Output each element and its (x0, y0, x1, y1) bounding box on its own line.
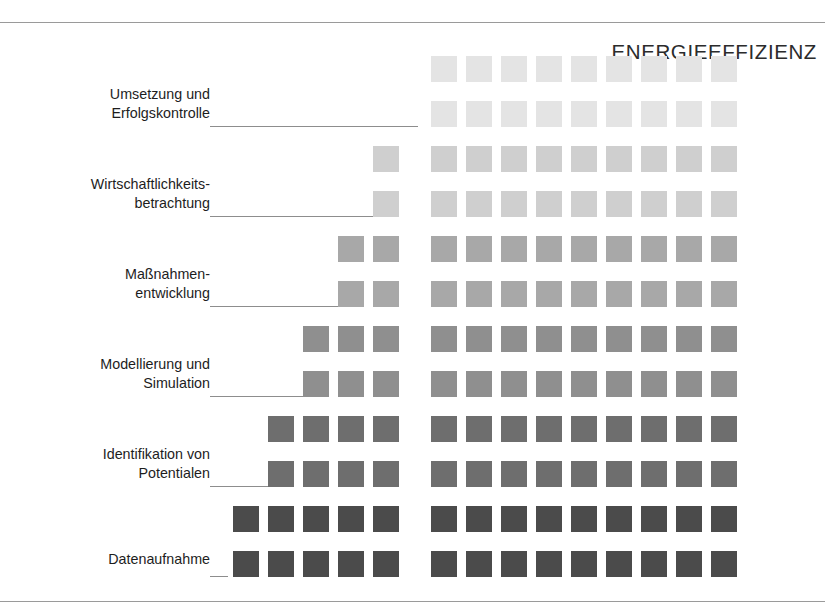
leader-line-massnahmenentwicklung (210, 306, 357, 307)
matrix-cell (268, 551, 294, 577)
matrix-cell (373, 461, 399, 487)
matrix-cell (431, 101, 457, 127)
matrix-cell (373, 506, 399, 532)
matrix-cell (676, 101, 702, 127)
matrix-cell (711, 416, 737, 442)
matrix-cell (431, 146, 457, 172)
matrix-cell (338, 281, 364, 307)
matrix-cell (466, 56, 492, 82)
matrix-cell (711, 461, 737, 487)
matrix-cell (536, 416, 562, 442)
matrix-cell (641, 146, 667, 172)
matrix-cell (676, 56, 702, 82)
matrix-cell (373, 416, 399, 442)
matrix-cell (571, 416, 597, 442)
stage-label-line2: betrachtung (91, 194, 210, 213)
matrix-cell (466, 236, 492, 262)
matrix-cell (303, 506, 329, 532)
matrix-cell (711, 146, 737, 172)
matrix-cell (338, 551, 364, 577)
matrix-cell (641, 326, 667, 352)
stage-label-modellierung-und-simulation: Modellierung undSimulation (100, 355, 210, 393)
matrix-cell (606, 506, 632, 532)
stage-label-line2: Erfolgskontrolle (110, 104, 210, 123)
matrix-cell (501, 146, 527, 172)
matrix-cell (606, 281, 632, 307)
matrix-cell (431, 326, 457, 352)
matrix-cell (431, 461, 457, 487)
matrix-cell (466, 416, 492, 442)
matrix-cell (466, 506, 492, 532)
matrix-cell (571, 191, 597, 217)
matrix-cell (606, 56, 632, 82)
matrix-cell (606, 326, 632, 352)
stage-label-line1: Modellierung und (100, 355, 210, 374)
matrix-cell (501, 461, 527, 487)
matrix-cell (431, 56, 457, 82)
matrix-cell (303, 551, 329, 577)
matrix-cell (466, 326, 492, 352)
matrix-cell (501, 371, 527, 397)
matrix-cell (373, 281, 399, 307)
matrix-cell (641, 551, 667, 577)
matrix-cell (571, 461, 597, 487)
matrix-cell (571, 56, 597, 82)
matrix-cell (431, 506, 457, 532)
matrix-cell (338, 326, 364, 352)
matrix-cell (536, 191, 562, 217)
leader-line-identifikation-von-potentialen (210, 486, 270, 487)
matrix-cell (641, 506, 667, 532)
matrix-cell (711, 56, 737, 82)
matrix-cell (373, 371, 399, 397)
matrix-cell (501, 236, 527, 262)
matrix-cell (536, 146, 562, 172)
matrix-cell (571, 236, 597, 262)
matrix-cell (466, 101, 492, 127)
matrix-cell (606, 191, 632, 217)
matrix-cell (606, 146, 632, 172)
matrix-cell (676, 191, 702, 217)
matrix-cell (571, 326, 597, 352)
matrix-cell (571, 551, 597, 577)
matrix-cell (303, 416, 329, 442)
matrix-cell (641, 101, 667, 127)
matrix-cell (641, 236, 667, 262)
matrix-cell (536, 56, 562, 82)
leader-line-umsetzung-und-erfolgskontrolle (210, 126, 418, 127)
matrix-cell (303, 461, 329, 487)
stage-label-line1: Umsetzung und (110, 85, 210, 104)
matrix-cell (711, 371, 737, 397)
matrix-cell (466, 551, 492, 577)
matrix-cell (676, 506, 702, 532)
matrix-cell (233, 506, 259, 532)
matrix-cell (711, 551, 737, 577)
matrix-cell (606, 236, 632, 262)
matrix-cell (501, 191, 527, 217)
matrix-cell (641, 371, 667, 397)
matrix-cell (676, 371, 702, 397)
stage-label-line2: entwicklung (125, 284, 210, 303)
stage-label-line2: Potentialen (103, 464, 210, 483)
matrix-cell (676, 236, 702, 262)
matrix-cell (571, 506, 597, 532)
matrix-cell (676, 281, 702, 307)
matrix-cell (338, 236, 364, 262)
matrix-cell (431, 416, 457, 442)
matrix-cell (431, 236, 457, 262)
matrix-cell (536, 551, 562, 577)
leader-line-wirtschaftlichkeitsbetrachtung (210, 216, 392, 217)
matrix-cell (373, 236, 399, 262)
matrix-cell (501, 326, 527, 352)
matrix-cell (338, 416, 364, 442)
matrix-cell (676, 326, 702, 352)
matrix-cell (303, 326, 329, 352)
matrix-cell (268, 506, 294, 532)
matrix-cell (571, 101, 597, 127)
bottom-rule (0, 601, 825, 602)
matrix-cell (711, 236, 737, 262)
matrix-cell (373, 551, 399, 577)
matrix-cell (711, 281, 737, 307)
matrix-cell (501, 56, 527, 82)
matrix-cell (338, 371, 364, 397)
stage-label-line2: Simulation (100, 374, 210, 393)
